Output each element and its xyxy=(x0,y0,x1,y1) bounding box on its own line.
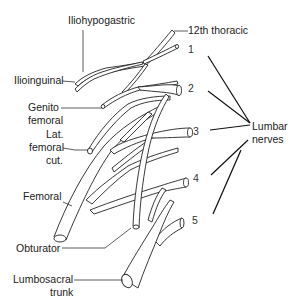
label-femoral: Femoral xyxy=(23,190,62,202)
label-iliohypogastric: Iliohypogastric xyxy=(68,14,135,26)
label-lat-femoral-cut-1: Lat. xyxy=(46,128,64,140)
root-labels: 12th thoracic 1 2 3 4 5 xyxy=(188,24,248,226)
nerve-structure xyxy=(54,30,193,289)
label-l4: 4 xyxy=(193,172,199,184)
label-lumbosacral-2: trunk xyxy=(50,286,74,298)
label-genitofemoral-2: femoral xyxy=(28,114,63,126)
label-lat-femoral-cut-3: cut. xyxy=(46,154,63,166)
nerve-lumbosacral-trunk xyxy=(122,200,174,288)
label-nerves: nerves xyxy=(252,133,284,145)
nerve-l3-root xyxy=(150,128,190,138)
label-obturator: Obturator xyxy=(16,242,61,254)
branch-labels: Iliohypogastric Ilioinguinal Genito femo… xyxy=(13,14,135,298)
lumbar-plexus-diagram: Iliohypogastric Ilioinguinal Genito femo… xyxy=(0,0,300,307)
label-lumbar: Lumbar xyxy=(252,120,288,132)
label-l3: 3 xyxy=(193,125,199,137)
lumbar-pointer-lines xyxy=(208,56,250,214)
label-l2: 2 xyxy=(188,82,194,94)
nerve-l2-root xyxy=(138,85,179,95)
label-ilioinguinal: Ilioinguinal xyxy=(14,74,64,86)
lumbar-nerves-label: Lumbar nerves xyxy=(252,120,288,145)
label-lumbosacral-1: Lumbosacral xyxy=(13,273,73,285)
label-lat-femoral-cut-2: femoral xyxy=(29,141,64,153)
label-12th-thoracic: 12th thoracic xyxy=(188,24,248,36)
label-genitofemoral-1: Genito xyxy=(28,101,59,113)
label-l5: 5 xyxy=(192,214,198,226)
label-l1: 1 xyxy=(188,43,194,55)
